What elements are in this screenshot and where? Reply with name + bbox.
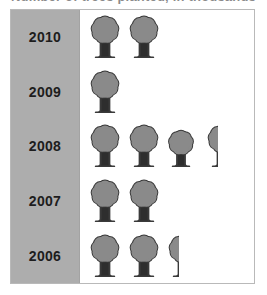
tree-slot: [203, 123, 241, 169]
year-label: 2008: [29, 138, 61, 154]
year-axis-cell: 2008: [11, 119, 79, 174]
tree-icon: [86, 233, 124, 277]
pictograph-row: [80, 228, 254, 283]
tree-slot: [86, 233, 124, 279]
pictograph-chart: 20102009200820072006: [10, 9, 255, 284]
tree-icon: [86, 178, 124, 222]
tree-icon: [164, 129, 198, 167]
pictograph-row: [80, 119, 254, 174]
tree-slot: [164, 233, 202, 279]
pictograph-row: [80, 10, 254, 65]
year-label: 2009: [29, 84, 61, 100]
tree-slot: [86, 69, 124, 115]
tree-icon: [125, 178, 163, 222]
year-axis-cell: 2010: [11, 10, 79, 65]
tree-slot: [86, 123, 124, 169]
partial-tree-icon: [203, 123, 218, 167]
pictograph-row: [80, 65, 254, 120]
tree-slot: [125, 14, 163, 60]
tree-icon: [125, 123, 163, 167]
tree-slot: [86, 178, 124, 224]
tree-icon: [125, 233, 163, 277]
tree-slot: [164, 123, 202, 169]
tree-icon: [86, 14, 124, 58]
tree-icon: [125, 14, 163, 58]
tree-icon: [86, 123, 124, 167]
year-label: 2006: [29, 248, 61, 264]
chart-title-strip: Number of trees planted, in thousands: [0, 0, 267, 8]
year-axis-column: 20102009200820072006: [11, 10, 80, 283]
year-axis-cell: 2007: [11, 174, 79, 229]
year-label: 2010: [29, 29, 61, 45]
pictograph-row: [80, 174, 254, 229]
tree-slot: [125, 123, 163, 169]
tree-slot: [125, 233, 163, 279]
tree-icon: [86, 69, 124, 113]
tree-slot: [125, 178, 163, 224]
year-axis-cell: 2009: [11, 65, 79, 120]
partial-tree-icon: [164, 233, 179, 277]
pictograph-plot-area: [80, 10, 254, 283]
chart-title: Number of trees planted, in thousands: [0, 0, 267, 4]
year-label: 2007: [29, 193, 61, 209]
tree-slot: [86, 14, 124, 60]
year-axis-cell: 2006: [11, 228, 79, 283]
